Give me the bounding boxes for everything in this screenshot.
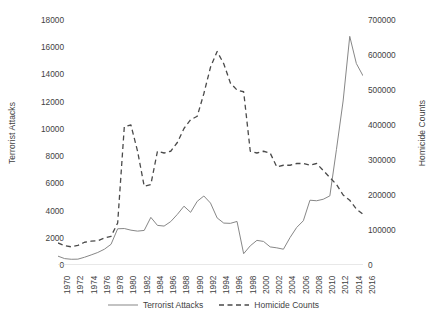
x-axis-tick-label: 1978 <box>115 276 125 294</box>
y-axis-right-tick-label: 400000 <box>368 120 396 130</box>
y-axis-right-tick-label: 300000 <box>368 155 396 165</box>
y-axis-right-title: Homicide Counts <box>417 88 427 178</box>
x-axis-tick-label: 1980 <box>128 276 138 294</box>
legend-label: Homicide Counts <box>254 300 319 310</box>
x-axis-tick-label: 1984 <box>155 276 165 294</box>
legend-label: Terrorist Attacks <box>143 300 203 310</box>
x-axis-tick-label: 2008 <box>314 276 324 294</box>
x-axis-tick-label: 1996 <box>234 276 244 294</box>
x-axis-tick-label: 2006 <box>301 276 311 294</box>
y-axis-right-tick-label: 0 <box>368 260 373 270</box>
x-axis-tick-label: 2012 <box>340 276 350 294</box>
x-axis-tick-label: 1992 <box>208 276 218 294</box>
series-line-homicide-counts <box>58 52 363 247</box>
series-canvas <box>58 20 363 265</box>
x-axis-tick-label: 1970 <box>62 276 72 294</box>
x-axis-tick-label: 1990 <box>195 276 205 294</box>
legend-dashed-line-icon <box>219 301 249 309</box>
x-axis-tick-label: 2002 <box>274 276 284 294</box>
y-axis-right-tick-label: 200000 <box>368 190 396 200</box>
x-axis-tick-label: 1972 <box>75 276 85 294</box>
x-axis-tick-label: 2010 <box>327 276 337 294</box>
x-axis-tick-label: 1976 <box>102 276 112 294</box>
x-axis-tick-label: 1982 <box>142 276 152 294</box>
y-axis-right-tick-label: 500000 <box>368 85 396 95</box>
x-axis-tick-label: 2014 <box>354 276 364 294</box>
y-axis-right-tick-label: 100000 <box>368 225 396 235</box>
y-axis-right-tick-label: 600000 <box>368 50 396 60</box>
x-axis-tick-label: 2004 <box>287 276 297 294</box>
chart-legend: Terrorist AttacksHomicide Counts <box>0 300 427 310</box>
x-axis-tick-label: 1974 <box>89 276 99 294</box>
x-axis-tick-label: 2016 <box>367 276 377 294</box>
y-axis-right-tick-label: 700000 <box>368 15 396 25</box>
y-axis-left-title: Terrorist Attacks <box>7 88 17 178</box>
x-axis-tick-label: 1986 <box>168 276 178 294</box>
legend-solid-line-icon <box>108 301 138 309</box>
legend-entry[interactable]: Homicide Counts <box>219 300 319 310</box>
x-axis-tick-label: 2000 <box>261 276 271 294</box>
legend-entry[interactable]: Terrorist Attacks <box>108 300 203 310</box>
dual-axis-line-chart: Terrorist Attacks Homicide Counts 020004… <box>0 0 427 322</box>
x-axis-tick-label: 1994 <box>221 276 231 294</box>
x-axis-tick-label: 1988 <box>181 276 191 294</box>
plot-area <box>58 20 363 265</box>
x-axis-tick-label: 1998 <box>248 276 258 294</box>
